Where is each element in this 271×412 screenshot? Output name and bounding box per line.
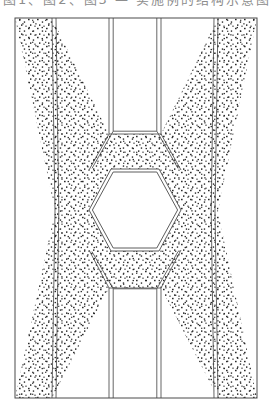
technical-drawing-svg (0, 0, 271, 412)
figure-container: 图1、图2、图3 — 实施例的结构示意图 (0, 0, 271, 412)
lower-void-floor (109, 288, 161, 289)
